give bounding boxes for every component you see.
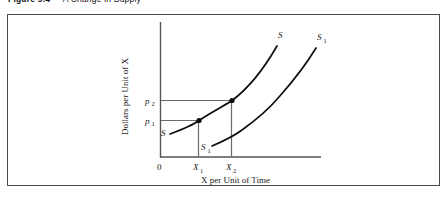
y-tick-p2-label: p bbox=[144, 96, 150, 106]
x-tick-x2: X 2 bbox=[225, 162, 236, 174]
y-axis-title: Dollars per Unit of X bbox=[120, 58, 130, 135]
y-tick-p2-sub: 2 bbox=[152, 100, 155, 107]
x-axis-title: X per Unit of Time bbox=[201, 175, 270, 185]
curve-label-s-top: S bbox=[278, 30, 283, 40]
origin-label: 0 bbox=[157, 162, 162, 172]
y-tick-p2: p 2 bbox=[144, 96, 155, 107]
y-axis-title-text: Dollars per Unit of X bbox=[120, 58, 130, 135]
x-tick-x1-sub: 1 bbox=[200, 167, 203, 174]
curve-label-s1-start: S 1 bbox=[201, 142, 211, 154]
curve-label-s1-top: S 1 bbox=[317, 32, 327, 44]
y-tick-p1-label: p bbox=[144, 116, 150, 126]
curve-label-s1-start-sub: 1 bbox=[208, 147, 211, 154]
y-tick-p1-sub: 1 bbox=[152, 120, 155, 127]
y-tick-p1: p 1 bbox=[144, 116, 155, 127]
curve-label-s-top-text: S bbox=[278, 30, 283, 40]
x-axis-title-text: X per Unit of Time bbox=[201, 175, 270, 185]
curve-label-s1-top-text: S bbox=[317, 32, 322, 42]
supply-curve-s1 bbox=[212, 48, 316, 146]
x-tick-x2-label: X bbox=[225, 162, 232, 172]
supply-curve-chart: Dollars per Unit of X p 2 p 1 0 X 1 X 2 … bbox=[0, 0, 448, 203]
curve-label-s1-top-sub: 1 bbox=[324, 37, 327, 44]
equilibrium-point-1 bbox=[196, 118, 201, 123]
x-tick-x1: X 1 bbox=[192, 162, 203, 174]
x-tick-x1-label: X bbox=[192, 162, 199, 172]
curve-label-s1-start-text: S bbox=[201, 142, 206, 152]
curve-label-s-start: S bbox=[161, 128, 166, 138]
equilibrium-point-2 bbox=[229, 98, 234, 103]
curve-label-s-start-text: S bbox=[161, 128, 166, 138]
x-tick-x2-sub: 2 bbox=[233, 167, 236, 174]
